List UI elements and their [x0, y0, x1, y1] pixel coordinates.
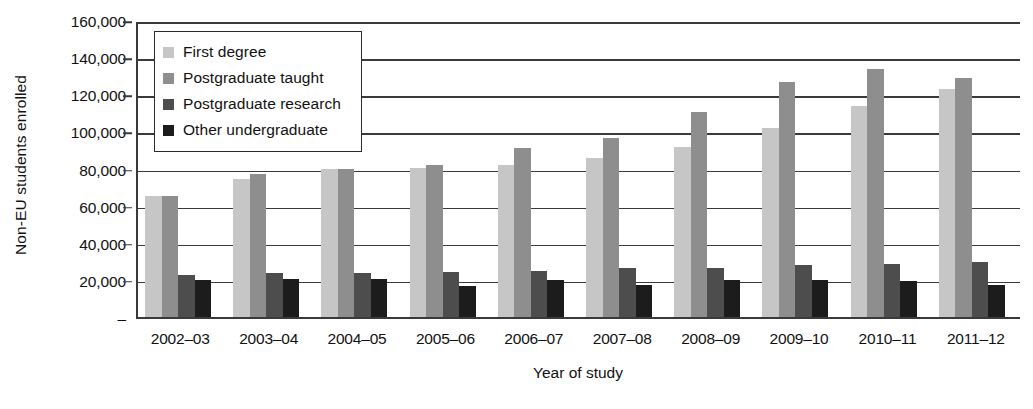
- legend-swatch: [163, 99, 174, 110]
- x-tick-label: 2004–05: [313, 330, 401, 356]
- bar: [691, 112, 708, 317]
- y-axis-title-text: Non-EU students enrolled: [12, 75, 30, 255]
- bar: [338, 169, 355, 318]
- legend-label: Postgraduate taught: [183, 69, 324, 87]
- y-tick-mark: [123, 170, 132, 172]
- legend-item: Other undergraduate: [163, 117, 351, 143]
- bar: [410, 168, 427, 317]
- bar: [674, 147, 691, 317]
- bar: [321, 169, 338, 317]
- bar: [851, 106, 868, 317]
- bar: [354, 273, 371, 317]
- x-tick-label: 2010–11: [843, 330, 931, 356]
- bar: [867, 69, 884, 317]
- bar: [707, 268, 724, 317]
- bar: [900, 281, 917, 317]
- y-axis-tick-labels: –20,00040,00060,00080,000100,000120,0001…: [34, 0, 132, 340]
- bar: [426, 165, 443, 317]
- bar: [162, 196, 179, 317]
- bar: [636, 285, 653, 317]
- chart-legend: First degreePostgraduate taughtPostgradu…: [154, 31, 362, 152]
- y-tick-label: 140,000: [71, 50, 126, 68]
- x-tick-label: 2003–04: [224, 330, 312, 356]
- bar: [547, 280, 564, 317]
- x-tick-label: 2006–07: [490, 330, 578, 356]
- y-tick-label: 100,000: [71, 124, 126, 142]
- legend-item: Postgraduate research: [163, 91, 351, 117]
- legend-label: Postgraduate research: [183, 95, 341, 113]
- legend-swatch: [163, 47, 174, 58]
- bar: [195, 280, 212, 317]
- y-tick-mark: [123, 133, 132, 135]
- bar-group: [755, 22, 843, 317]
- bar: [762, 128, 779, 317]
- bar: [178, 275, 195, 317]
- bar: [884, 264, 901, 317]
- x-tick-label: 2011–12: [932, 330, 1020, 356]
- y-tick-mark: [123, 58, 132, 60]
- bar: [250, 174, 267, 317]
- bar-chart-figure: Non-EU students enrolled –20,00040,00060…: [0, 0, 1033, 409]
- y-tick-mark: [123, 207, 132, 209]
- bar: [779, 82, 796, 317]
- bar: [812, 280, 829, 317]
- x-tick-label: 2007–08: [578, 330, 666, 356]
- legend-item: Postgraduate taught: [163, 65, 351, 91]
- bar: [443, 272, 460, 317]
- y-tick-label: 80,000: [79, 162, 126, 180]
- x-axis-title: Year of study: [136, 364, 1020, 382]
- bar-group: [491, 22, 579, 317]
- bar-group: [579, 22, 667, 317]
- x-tick-label: 2002–03: [136, 330, 224, 356]
- bar: [145, 196, 162, 317]
- y-tick-mark: [123, 21, 132, 23]
- x-tick-label: 2009–10: [755, 330, 843, 356]
- y-tick-mark: [123, 244, 132, 246]
- legend-swatch: [163, 73, 174, 84]
- bar: [972, 262, 989, 317]
- bar: [603, 138, 620, 317]
- bar: [531, 271, 548, 317]
- bar: [988, 285, 1005, 317]
- bar: [724, 280, 741, 317]
- bar: [371, 279, 388, 317]
- bar: [586, 158, 603, 317]
- y-axis-title: Non-EU students enrolled: [8, 0, 34, 330]
- bar: [459, 286, 476, 317]
- x-axis-tick-labels: 2002–032003–042004–052005–062006–072007–…: [136, 330, 1020, 356]
- y-tick-label: 40,000: [79, 236, 126, 254]
- y-tick-label: 160,000: [71, 13, 126, 31]
- bar: [498, 165, 515, 317]
- y-tick-mark: [123, 281, 132, 283]
- legend-item: First degree: [163, 39, 351, 65]
- bar: [514, 148, 531, 317]
- bar: [283, 279, 300, 317]
- x-tick-label: 2008–09: [666, 330, 754, 356]
- bar: [266, 273, 283, 317]
- y-tick-mark: [123, 96, 132, 98]
- bar: [939, 89, 956, 317]
- bar: [233, 179, 250, 317]
- bar: [955, 78, 972, 317]
- legend-swatch: [163, 125, 174, 136]
- x-tick-label: 2005–06: [401, 330, 489, 356]
- bar: [795, 265, 812, 317]
- legend-label: Other undergraduate: [183, 121, 328, 139]
- bar-group: [932, 22, 1020, 317]
- bar: [619, 268, 636, 317]
- bar-group: [844, 22, 932, 317]
- y-tick-label: 60,000: [79, 199, 126, 217]
- y-tick-label: 20,000: [79, 273, 126, 291]
- y-tick-label: –: [117, 310, 126, 328]
- y-tick-label: 120,000: [71, 87, 126, 105]
- bar-group: [667, 22, 755, 317]
- bar-group: [403, 22, 491, 317]
- legend-label: First degree: [183, 43, 266, 61]
